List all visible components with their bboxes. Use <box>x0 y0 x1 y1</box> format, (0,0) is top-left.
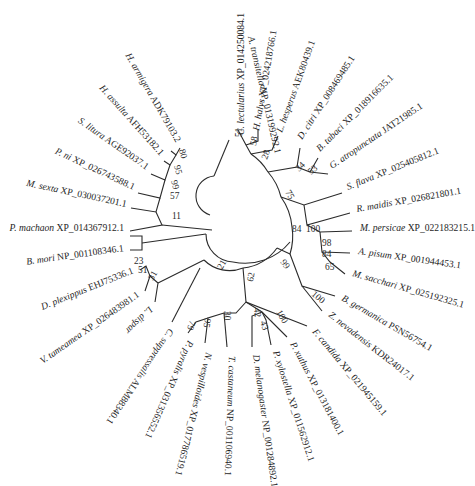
species-name: T. castaneum <box>225 356 238 407</box>
taxon-label: M. persicae XP_022183215.1 <box>359 222 475 233</box>
accession-id: XP_022183215.1 <box>405 222 475 233</box>
taxon-label: D. melanogaster NP_001284892.1 <box>251 353 281 486</box>
tree-branch <box>162 225 212 230</box>
species-name: R. maidis <box>354 197 393 214</box>
species-name: A. pisum <box>357 245 393 261</box>
accession-id: ALM88340.1 <box>104 375 144 426</box>
taxon-label: R. maidis XP_026821801.1 <box>354 185 462 214</box>
species-name: D. melanogaster <box>251 353 271 419</box>
accession-id: XP_011562912.1 <box>285 393 317 463</box>
taxon-label: B. germanica PSN56754.1 <box>340 292 435 353</box>
bootstrap-value: 34 <box>293 159 307 173</box>
bootstrap-value: 43 <box>258 319 271 332</box>
taxon-label: C. lectularius XP_014250084.1 <box>235 13 246 135</box>
tree-branch <box>277 227 293 254</box>
species-name: F. candida <box>310 325 345 364</box>
tree-branch <box>196 176 214 215</box>
taxon-label: L. dispar <box>123 304 156 337</box>
taxon-label: T. castaneum NP_001106940.1 <box>223 356 238 476</box>
accession-id: XP_014250084.1 <box>235 13 246 83</box>
bootstrap-value: 53 <box>306 163 320 177</box>
accession-id: XP_026821801.1 <box>391 185 462 208</box>
accession-id: XP_031356552.1 <box>143 372 182 440</box>
accession-id: XP_025405812.1 <box>371 145 440 181</box>
taxon-label: A. pisum XP_001944453.1 <box>357 245 462 270</box>
tree-branch <box>172 268 200 322</box>
tree-branch <box>138 180 165 198</box>
bootstrap-value: 100 <box>306 224 320 234</box>
tree-branch <box>281 197 292 227</box>
taxon-label: M. sacchari XP_025192325.1 <box>350 267 465 310</box>
bootstrap-value: 84 <box>292 224 302 234</box>
species-name: C. suppressalis <box>135 327 177 382</box>
accession-id: NP_001106940.1 <box>223 406 236 476</box>
taxon-label: B. tabaci XP_018916635.1 <box>314 72 396 154</box>
accession-id: JAT21985.1 <box>377 100 424 137</box>
species-name: S. flava <box>345 171 376 192</box>
taxon-labels: A. transitella XP_013199292.1C. lectular… <box>9 13 475 486</box>
tree-branch <box>304 205 350 225</box>
tree-branch <box>243 248 277 268</box>
bootstrap-value: 99 <box>169 179 181 191</box>
accession-id: NP_001284892.1 <box>260 417 281 486</box>
bootstrap-value: 30 <box>222 311 232 321</box>
tree-branch <box>214 140 229 176</box>
accession-id: AEK80439.1 <box>289 39 317 93</box>
species-name: M. persicae <box>359 222 406 233</box>
species-name: P. pyralis <box>171 338 196 377</box>
accession-id: NP_001108346.1 <box>54 242 125 263</box>
species-name: H. assulta <box>97 81 132 118</box>
accession-id: XP_014367912.1 <box>54 222 124 233</box>
phylogenetic-tree: A. transitella XP_013199292.1C. lectular… <box>0 0 475 486</box>
species-name: B. tabaci <box>314 121 347 154</box>
species-name: L. hesperus <box>273 88 299 135</box>
species-name: M. sacchari <box>350 267 398 291</box>
accession-id: XP_030037201.1 <box>57 184 128 209</box>
species-name: L. dispar <box>123 304 156 337</box>
tree-branch <box>130 236 142 250</box>
bootstrap-value: 100 <box>274 308 290 325</box>
species-name: M. sexta <box>24 177 59 195</box>
taxon-label: H. armigera ADK79103.2 <box>123 50 184 144</box>
bootstrap-value: 11 <box>172 211 181 221</box>
tree-branch <box>164 155 176 165</box>
taxon-label: B. mori NP_001108346.1 <box>25 242 124 267</box>
accession-id: XP_001944453.1 <box>391 250 462 271</box>
taxon-label: P. machaon XP_014367912.1 <box>9 222 125 233</box>
bootstrap-value: 62 <box>245 271 257 282</box>
accession-id: KDR24017.1 <box>368 341 417 383</box>
accession-id: XP_025192325.1 <box>396 280 466 310</box>
species-name: C. lectularius <box>235 83 246 135</box>
bootstrap-value: 95 <box>201 318 213 329</box>
bootstrap-value: 51 <box>234 127 244 137</box>
species-name: V. tameamea <box>38 329 84 366</box>
bootstrap-value: 98 <box>322 238 332 248</box>
tree-branch <box>268 172 281 197</box>
species-name: H. armigera <box>123 50 157 98</box>
bootstrap-value: 100 <box>310 289 327 306</box>
tree-branch <box>158 260 204 283</box>
tree-branch <box>131 198 160 212</box>
bootstrap-value: 84 <box>322 249 332 259</box>
species-name: P. xylostella <box>271 348 296 396</box>
tree-branch <box>151 165 170 180</box>
accession-id: XP_021945159.1 <box>336 357 389 418</box>
accession-id: XP_013181400.1 <box>304 370 347 437</box>
tree-branch <box>142 234 206 243</box>
species-name: B. mori <box>25 252 55 267</box>
species-name: N. vespilloides <box>190 351 215 410</box>
bootstrap-value: 99 <box>278 257 292 271</box>
accession-id: EHJ75336.1 <box>84 265 135 294</box>
bootstrap-value: 75 <box>283 188 297 201</box>
species-name: P. xuthus <box>288 339 314 376</box>
bootstrap-values: 8095995711235131216299841007528585134539… <box>134 127 335 332</box>
species-name: P. machaon <box>9 222 55 233</box>
bootstrap-value: 51 <box>138 265 148 275</box>
bootstrap-value: 79 <box>185 319 198 332</box>
bootstrap-value: 57 <box>170 191 180 201</box>
bootstrap-value: 65 <box>325 262 335 272</box>
accession-id: XP_017786519.1 <box>173 406 201 477</box>
species-name: D. plexippus <box>38 283 88 312</box>
tree-branch <box>130 212 162 231</box>
bootstrap-value: 80 <box>177 148 189 160</box>
